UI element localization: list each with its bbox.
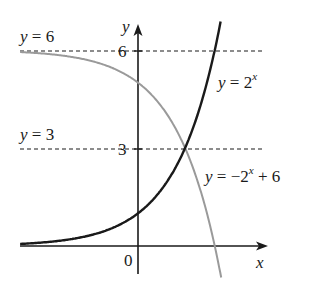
curve-neg-exp <box>20 52 221 277</box>
y-axis-label: y <box>120 17 130 36</box>
tick-label-3: 3 <box>118 140 127 159</box>
ref-label-y3: y = 3 <box>18 125 54 144</box>
graph: y = 6 y = 3 y x 0 6 3 y = 2x y = −2x + 6 <box>0 0 314 287</box>
ref-label-y6: y = 6 <box>18 27 54 46</box>
origin-label: 0 <box>124 251 133 270</box>
label-neg-exp: y = −2x + 6 <box>203 164 280 186</box>
tick-label-6: 6 <box>118 42 127 61</box>
x-axis-label: x <box>255 253 264 272</box>
label-exp: y = 2x <box>216 70 257 92</box>
